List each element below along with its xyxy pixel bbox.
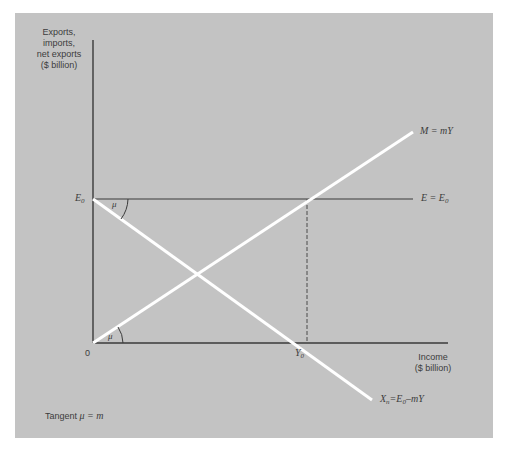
- net-exports-line-label: Xn=E0–mY: [380, 394, 424, 404]
- x-axis-label: Income ($ billion): [408, 352, 458, 374]
- angle-arc-top: [121, 199, 128, 219]
- angle-arc-bottom: [118, 327, 123, 343]
- tangent-note: Tangent μ = m: [45, 411, 104, 421]
- angle-label-top: μ: [112, 199, 117, 209]
- diagram-canvas: [15, 13, 493, 438]
- e0-tick-label: E0: [75, 193, 85, 203]
- exports-line-label: E = E0: [421, 193, 448, 203]
- angle-label-bottom: μ: [108, 331, 113, 341]
- imports-line-label: M = mY: [420, 126, 453, 136]
- net-exports-line: [93, 199, 372, 400]
- y0-tick-label: Y0: [295, 348, 304, 358]
- imports-line: [93, 132, 413, 343]
- y-axis-label: Exports, imports, net exports ($ billion…: [27, 27, 91, 71]
- origin-label: 0: [85, 348, 90, 358]
- diagram-panel: Exports, imports, net exports ($ billion…: [15, 13, 493, 438]
